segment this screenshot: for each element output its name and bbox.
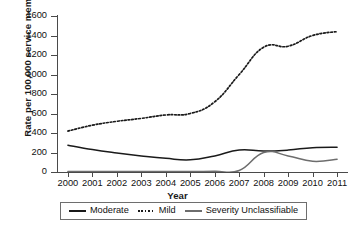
x-tick-mark	[215, 172, 216, 177]
legend-label: Mild	[159, 206, 176, 215]
x-tick-mark	[337, 172, 338, 177]
series-line-mild	[68, 32, 337, 131]
series-line-severity-unclassifiable	[68, 151, 337, 172]
legend-swatch-dotted-icon	[138, 208, 155, 214]
legend-swatch-solid-dark-icon	[69, 208, 86, 214]
x-tick-mark	[166, 172, 167, 177]
legend-entry-mild[interactable]: Mild	[138, 206, 176, 215]
y-tick-label: 1000	[0, 70, 47, 79]
y-tick-label: 200	[0, 148, 47, 157]
legend-label: Moderate	[90, 206, 129, 215]
plot-area	[57, 16, 348, 172]
y-tick-label: 400	[0, 128, 47, 137]
y-tick-label: 1400	[0, 31, 47, 40]
chart-figure: Rate per 100,000 service members 0200400…	[0, 0, 355, 234]
series-canvas	[57, 16, 348, 172]
x-axis-title: Year	[0, 190, 355, 201]
legend-entry-moderate[interactable]: Moderate	[69, 206, 129, 215]
x-tick-mark	[313, 172, 314, 177]
chart-legend: ModerateMildSeverity Unclassifiable	[60, 202, 307, 220]
x-tick-mark	[141, 172, 142, 177]
legend-entry-severity-unclassifiable[interactable]: Severity Unclassifiable	[185, 206, 298, 215]
x-tick-label: 2011	[322, 178, 352, 188]
y-tick-label: 1200	[0, 50, 47, 59]
legend-swatch-solid-gray-icon	[185, 208, 202, 214]
x-tick-mark	[288, 172, 289, 177]
y-tick-mark	[51, 172, 57, 173]
x-tick-mark	[117, 172, 118, 177]
x-tick-mark	[68, 172, 69, 177]
y-tick-label: 1600	[0, 11, 47, 20]
y-tick-label: 600	[0, 109, 47, 118]
x-tick-mark	[239, 172, 240, 177]
x-tick-mark	[190, 172, 191, 177]
legend-label: Severity Unclassifiable	[206, 206, 298, 215]
x-tick-mark	[92, 172, 93, 177]
y-tick-label: 800	[0, 89, 47, 98]
x-tick-mark	[264, 172, 265, 177]
y-tick-label: 0	[0, 167, 47, 176]
